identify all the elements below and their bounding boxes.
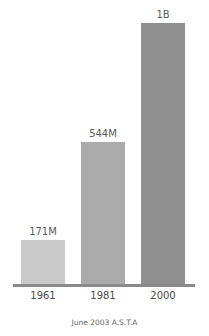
value-label-2000: 1B [133, 9, 193, 20]
bar-1961 [21, 240, 65, 284]
category-label-1961: 1961 [13, 290, 73, 301]
bar-2000 [141, 23, 185, 284]
value-label-1961: 171M [13, 226, 73, 237]
x-axis-line [13, 284, 195, 287]
bar-1981 [81, 142, 125, 284]
value-label-1981: 544M [73, 128, 133, 139]
source-footer: June 2003 A.S.T.A [0, 318, 209, 327]
category-label-1981: 1981 [73, 290, 133, 301]
category-label-2000: 2000 [133, 290, 193, 301]
